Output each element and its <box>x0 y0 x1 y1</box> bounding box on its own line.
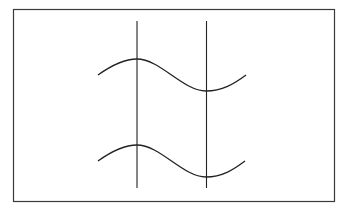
lower-wave-curve <box>98 145 245 177</box>
upper-wave-curve <box>98 59 246 91</box>
frame-border <box>14 10 335 202</box>
diagram-canvas <box>0 0 349 209</box>
